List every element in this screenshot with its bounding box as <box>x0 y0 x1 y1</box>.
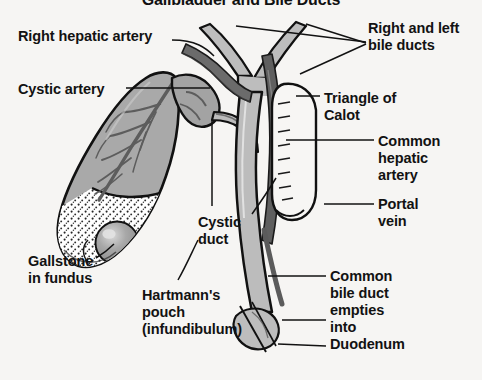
label-right-hepatic-artery: Right hepatic artery <box>18 28 152 45</box>
leader-left-bile-duct <box>300 44 366 74</box>
gallbladder-body <box>58 72 179 275</box>
label-hartmanns-pouch: Hartmann's pouch (infundibulum) <box>142 287 242 338</box>
label-portal-vein: Portal vein <box>378 196 419 230</box>
leader-hartmanns-pouch <box>178 240 198 280</box>
label-common-bile-duct-duodenum: Common bile duct empties into Duodenum <box>330 268 405 353</box>
label-cystic-duct: Cystic duct <box>198 214 241 248</box>
label-triangle-of-calot: Triangle of Calot <box>324 90 396 124</box>
label-gallstone-in-fundus: Gallstone in fundus <box>28 253 93 287</box>
portal-vein-vessel <box>272 84 316 220</box>
leader-bile-duct-upper <box>306 24 366 43</box>
label-common-hepatic-artery: Common hepatic artery <box>378 133 440 184</box>
label-right-and-left-bile-ducts: Right and left bile ducts <box>368 20 459 54</box>
leader-duodenum <box>278 344 326 346</box>
label-cystic-artery: Cystic artery <box>18 81 105 98</box>
